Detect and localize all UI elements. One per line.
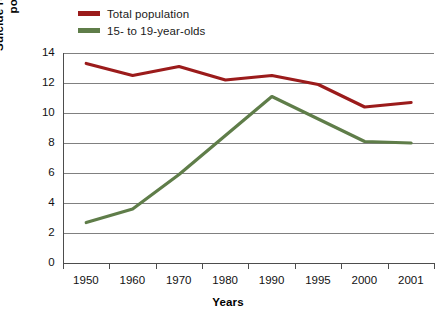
legend-swatch-teens	[78, 28, 100, 33]
chart-legend: Total population 15- to 19-year-olds	[78, 6, 205, 40]
series-line-total-population	[86, 63, 411, 107]
legend-swatch-total-population	[78, 11, 100, 16]
y-tick-label-6: 6	[15, 166, 55, 178]
y-axis-title: Suicide rate per 100,000 population	[0, 0, 20, 78]
suicide-rate-line-chart: Total population 15- to 19-year-olds 024…	[0, 0, 440, 318]
y-tick-label-10: 10	[15, 106, 55, 118]
plot-area	[63, 53, 434, 263]
series-lines	[63, 53, 435, 264]
y-tick-label-2: 2	[15, 226, 55, 238]
y-tick-label-4: 4	[15, 196, 55, 208]
legend-label-teens: 15- to 19-year-olds	[107, 25, 205, 37]
y-axis-title-line2: population	[6, 0, 20, 78]
y-tick-label-12: 12	[15, 76, 55, 88]
x-tick-label-2001: 2001	[381, 274, 440, 286]
legend-label-total-population: Total population	[107, 8, 189, 20]
legend-item-total-population: Total population	[78, 6, 205, 21]
y-tick-label-8: 8	[15, 136, 55, 148]
x-axis-title: Years	[8, 296, 440, 308]
y-tick-label-0: 0	[15, 256, 55, 268]
series-line-15-to-19-year-olds	[86, 96, 411, 222]
y-tick-label-14: 14	[15, 46, 55, 58]
legend-item-teens: 15- to 19-year-olds	[78, 23, 205, 38]
